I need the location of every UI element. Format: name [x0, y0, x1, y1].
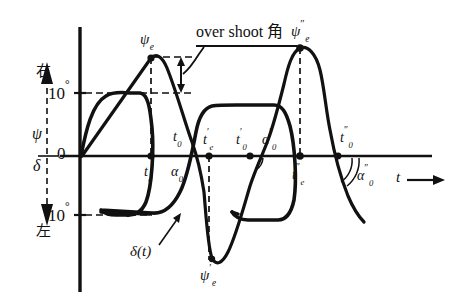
label-t-e-dprime: t″e: [292, 165, 304, 184]
psi-e-dprime-sub: e: [305, 34, 309, 44]
overshoot-arrow-head-down: [177, 84, 185, 93]
label-alpha-0-prime: α′0: [262, 130, 276, 149]
label-t-e: te: [144, 165, 152, 181]
dot-t-0-dprime: [335, 153, 342, 160]
t-e-dprime-mark: ″: [296, 161, 300, 172]
dot-t-0-prime: [246, 152, 253, 159]
overshoot-annotation-label: over shoot 角: [196, 24, 283, 40]
dot-t-e: [147, 152, 154, 159]
tick-minus-ten-value: 10: [48, 206, 65, 225]
alpha-0-sub: 0: [179, 174, 183, 184]
delta-pointer-head: [173, 213, 181, 223]
delta-pointer-shaft: [159, 218, 178, 245]
overshoot-arrow-head-up: [177, 57, 185, 66]
t-0-prime-mark: ′: [240, 126, 242, 137]
tick-plus-ten-value: 10: [48, 84, 65, 103]
marker-dots: [147, 44, 341, 262]
label-t-e-prime: t′e: [203, 130, 213, 149]
label-right-direction: 右: [36, 64, 51, 79]
psi-e-dprime-base: ψ: [291, 23, 300, 39]
label-axis-psi: ψ: [32, 126, 42, 142]
psi-e-base: ψ: [140, 31, 149, 47]
tick-minus-ten-degree-sign: °: [65, 200, 70, 213]
dot-psi-e-peak: [147, 54, 154, 61]
t-e-dprime-sub: e: [300, 177, 304, 187]
label-t-0: t0: [173, 130, 181, 146]
t-e-prime-mark: ′: [207, 126, 209, 137]
t-0-dprime-mark: ″: [344, 124, 348, 135]
label-t-0-prime: t′0: [236, 130, 246, 149]
dot-t-e-prime: [205, 152, 212, 159]
dot-t-e-dprime: [296, 152, 304, 160]
t-0-dprime-sub: 0: [348, 140, 352, 150]
label-alpha-0: α0: [171, 165, 183, 181]
tick-plus-ten-degree-sign: °: [65, 78, 70, 91]
t-0-sub: 0: [177, 139, 181, 149]
label-psi-e-prime: ψ′e: [200, 266, 216, 286]
label-time-axis: t: [396, 170, 400, 185]
psi-e-dprime-mark: ″: [300, 18, 304, 29]
label-psi-e-dprime: ψ″e: [291, 22, 309, 42]
diagram-canvas: [0, 0, 451, 302]
overshoot-leader-line: [183, 47, 204, 74]
psi-e-prime-sub: e: [212, 278, 216, 288]
t-e-sub: e: [148, 174, 152, 184]
label-delta-of-t: δ(t): [130, 244, 151, 259]
delta-curve-plateau-left: [101, 212, 150, 214]
label-axis-delta: δ: [33, 158, 40, 174]
overshoot-angle-diagram: 右 左 ψ δ 0 10° 10° over shoot 角 ψe ψ′e ψ″…: [0, 0, 451, 302]
t-0-prime-sub: 0: [242, 142, 246, 152]
delta-curve-tail: [232, 212, 238, 214]
psi-e-sub: e: [150, 42, 154, 52]
time-axis-arrow: [407, 175, 445, 185]
label-t-0-dprime: t″0: [340, 128, 352, 147]
psi-e-prime-base: ψ: [200, 267, 209, 283]
peak-drop-lines: [151, 48, 300, 260]
alpha-0-dprime-mark: ″: [364, 162, 368, 173]
t-arrow-head: [433, 175, 445, 185]
alpha-0-prime-sub: 0: [272, 142, 276, 152]
alpha-0-base: α: [171, 164, 178, 179]
delta-label-pointer: [159, 213, 181, 245]
t-e-prime-sub: e: [209, 142, 213, 152]
label-tick-plus-ten: 10°: [48, 83, 70, 102]
label-left-direction: 左: [36, 224, 51, 239]
dot-psi-e-dprime-peak: [296, 44, 304, 52]
label-tick-zero: 0: [57, 145, 66, 162]
label-alpha-0-dprime: α″0: [357, 166, 373, 185]
alpha-0-prime-mark: ′: [269, 126, 271, 137]
label-psi-e: ψe: [140, 32, 153, 50]
alpha-0-dprime-sub: 0: [369, 178, 373, 188]
overshoot-measure-arrow: [177, 57, 185, 93]
psi-e-prime-mark: ′: [209, 262, 211, 273]
label-tick-minus-ten: 10°: [48, 205, 70, 224]
